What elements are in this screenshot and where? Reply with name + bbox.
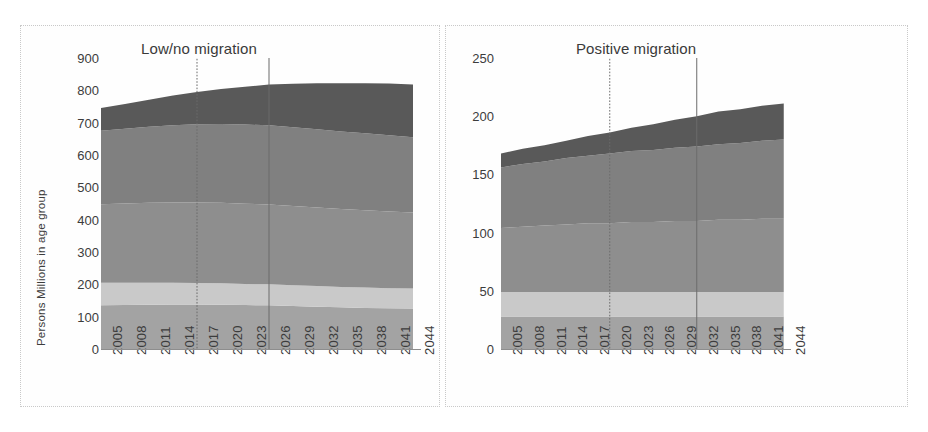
y-tick-label: 50 bbox=[480, 285, 494, 298]
x-axis-baseline bbox=[501, 349, 791, 350]
y-tick-label: 600 bbox=[77, 149, 99, 162]
x-tick-label: 2011 bbox=[159, 326, 172, 355]
area-series-45-69-yrs bbox=[101, 124, 413, 213]
x-tick-label: 2038 bbox=[375, 325, 388, 355]
x-tick-label: 2041 bbox=[772, 325, 785, 355]
x-tick-label: 2044 bbox=[794, 325, 807, 355]
x-tick-label: 2029 bbox=[303, 325, 316, 355]
y-axis-label-left: Persons Millions in age group bbox=[35, 189, 47, 346]
chart-panel-low-no-migration: Low/no migration Persons Millions in age… bbox=[20, 25, 440, 407]
x-tick-label: 2026 bbox=[663, 325, 676, 355]
x-tick-label: 2032 bbox=[707, 325, 720, 355]
x-tick-label: 2020 bbox=[620, 325, 633, 355]
y-tick-label: 250 bbox=[472, 52, 494, 65]
y-tick-label: 0 bbox=[92, 343, 99, 356]
chart-title-left: Low/no migration bbox=[141, 40, 257, 57]
y-tick-label: 400 bbox=[77, 214, 99, 227]
area-series-25-44-yrs bbox=[501, 219, 784, 292]
y-tick-label: 100 bbox=[472, 227, 494, 240]
y-tick-label: 700 bbox=[77, 117, 99, 130]
x-tick-label: 2035 bbox=[729, 325, 742, 355]
y-tick-label: 0 bbox=[487, 343, 494, 356]
x-tick-label: 2017 bbox=[598, 325, 611, 355]
x-tick-label: 2014 bbox=[183, 325, 196, 355]
y-axis-ticks-right: 050100150200250 bbox=[452, 26, 494, 406]
x-tick-label: 2011 bbox=[555, 326, 568, 355]
x-tick-label: 2017 bbox=[207, 325, 220, 355]
chart-panel-positive-migration: Positive migration 050100150200250 20052… bbox=[445, 25, 908, 407]
x-tick-label: 2038 bbox=[750, 325, 763, 355]
y-tick-label: 200 bbox=[77, 278, 99, 291]
x-tick-label: 2020 bbox=[231, 325, 244, 355]
chart-title-right: Positive migration bbox=[576, 40, 696, 57]
y-tick-label: 800 bbox=[77, 84, 99, 97]
x-tick-label: 2026 bbox=[279, 325, 292, 355]
plot-area-left bbox=[101, 58, 421, 349]
x-tick-label: 2029 bbox=[685, 325, 698, 355]
x-axis-baseline bbox=[101, 349, 421, 350]
area-series-15-24-yrs bbox=[501, 292, 784, 316]
x-tick-label: 2005 bbox=[111, 325, 124, 355]
y-tick-label: 300 bbox=[77, 246, 99, 259]
x-tick-label: 2008 bbox=[135, 325, 148, 355]
y-tick-label: 900 bbox=[77, 52, 99, 65]
y-tick-label: 150 bbox=[472, 168, 494, 181]
x-tick-label: 2023 bbox=[642, 325, 655, 355]
stacked-area-svg bbox=[501, 58, 791, 349]
x-tick-label: 2041 bbox=[399, 325, 412, 355]
x-tick-label: 2044 bbox=[423, 325, 436, 355]
area-series-25-44-yrs bbox=[101, 203, 413, 289]
x-tick-label: 2014 bbox=[576, 325, 589, 355]
y-tick-label: 100 bbox=[77, 311, 99, 324]
x-tick-label: 2023 bbox=[255, 325, 268, 355]
y-tick-label: 500 bbox=[77, 181, 99, 194]
stacked-area-svg bbox=[101, 58, 421, 349]
x-tick-label: 2008 bbox=[533, 325, 546, 355]
x-tick-label: 2005 bbox=[511, 325, 524, 355]
y-tick-label: 200 bbox=[472, 110, 494, 123]
y-axis-ticks-left: 0100200300400500600700800900 bbox=[57, 26, 99, 406]
figure: Low/no migration Persons Millions in age… bbox=[0, 0, 928, 432]
x-tick-label: 2032 bbox=[327, 325, 340, 355]
x-tick-label: 2035 bbox=[351, 325, 364, 355]
plot-area-right bbox=[501, 58, 791, 349]
